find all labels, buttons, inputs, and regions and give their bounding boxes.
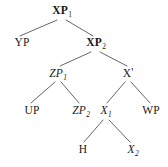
tree-node-x2: X2 [128,144,139,156]
tree-edge-xp1-to-yp [20,20,57,36]
tree-node-wp: WP [142,105,159,117]
tree-node-label-xbar: X [123,67,131,79]
tree-edge-xbar-to-x1 [107,82,125,103]
tree-node-xbar: X' [123,68,134,80]
tree-node-x1: X1 [101,105,112,117]
tree-node-zp2: ZP2 [72,105,89,117]
tree-node-subscript-zp2: 2 [86,110,90,119]
tree-node-prime-xbar: ' [131,66,133,78]
tree-edge-zp1-to-up [31,82,55,103]
tree-node-subscript-zp1: 1 [63,73,67,82]
tree-node-xp2: XP2 [86,37,105,49]
tree-edge-zp1-to-zp2 [61,82,79,103]
tree-edges-layer [0,0,168,167]
tree-node-subscript-x2: 2 [135,149,139,158]
tree-edge-x1-to-h [84,120,103,142]
tree-node-h: H [79,144,87,156]
tree-node-label-wp: WP [142,104,159,116]
tree-node-label-zp1: ZP [49,67,63,79]
tree-node-subscript-xp2: 2 [102,42,106,51]
tree-edge-xp2-to-xbar [100,52,127,66]
tree-node-label-xp2: XP [86,36,102,48]
tree-node-subscript-xp1: 1 [68,10,72,19]
tree-node-zp1: ZP1 [49,68,66,80]
tree-node-subscript-x1: 1 [108,110,112,119]
syntax-tree-diagram: XP1YPXP2ZP1X'UPZP2X1WPHX2 [0,0,168,167]
tree-edge-xbar-to-wp [131,82,150,103]
tree-node-label-zp2: ZP [72,104,86,116]
tree-node-xp1: XP1 [52,5,71,17]
tree-node-label-h: H [79,143,87,155]
tree-edge-xp2-to-zp1 [60,52,91,66]
tree-node-label-yp: YP [15,36,30,48]
tree-edge-xp1-to-xp2 [66,20,93,36]
tree-node-label-up: UP [25,104,40,116]
tree-node-yp: YP [15,37,30,49]
tree-node-up: UP [25,105,40,117]
tree-node-label-xp1: XP [52,4,68,16]
tree-edge-x1-to-x2 [109,120,130,142]
